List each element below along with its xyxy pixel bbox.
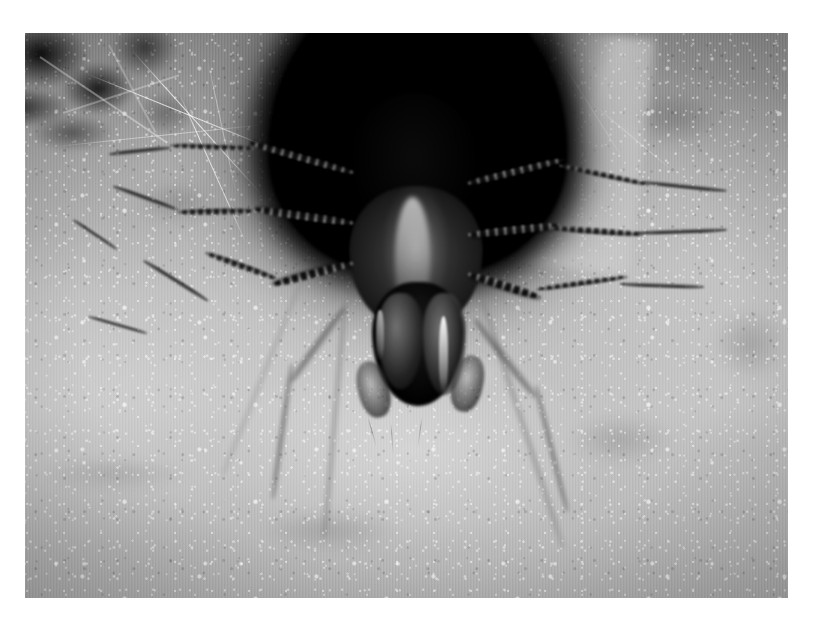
page-root: Funnel-web spider at burrow entrance bbox=[0, 0, 817, 627]
photograph bbox=[25, 33, 788, 598]
cheliceral-highlight-left bbox=[376, 310, 384, 361]
fang-highlight bbox=[439, 316, 449, 395]
